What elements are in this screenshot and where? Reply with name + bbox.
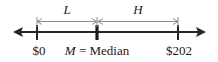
number-line-figure: L H $0 M = Median $202: [0, 0, 218, 62]
median-word: Median: [89, 43, 129, 58]
axis-label-minimum: $0: [33, 44, 46, 57]
span-label-L: L: [63, 3, 70, 16]
median-equals: =: [76, 43, 90, 58]
span-label-H: H: [133, 3, 142, 16]
median-symbol: M: [65, 43, 76, 58]
axis-label-median: M = Median: [65, 44, 129, 57]
axis-label-maximum: $202: [166, 44, 192, 57]
